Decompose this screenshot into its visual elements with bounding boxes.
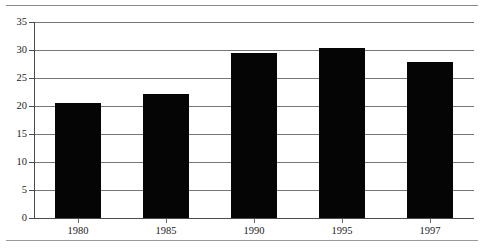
bar-1995 xyxy=(319,48,365,218)
bar-1997 xyxy=(407,62,453,218)
y-axis-tick-25 xyxy=(29,78,35,79)
y-axis-tick-labels: 05101520253035 xyxy=(0,0,27,249)
x-axis-tick-1985 xyxy=(166,219,167,223)
x-axis-label-1997: 1997 xyxy=(386,225,474,236)
x-axis-label-1990: 1990 xyxy=(210,225,298,236)
x-axis-tick-1990 xyxy=(254,219,255,223)
y-axis-tick-15 xyxy=(29,134,35,135)
y-axis-label-25: 25 xyxy=(3,73,27,84)
bottom-divider-rule xyxy=(6,240,478,241)
bar-chart-figure: 05101520253035 19801985199019951997 xyxy=(0,0,484,249)
x-axis-tick-1995 xyxy=(342,219,343,223)
bar-1990 xyxy=(231,53,277,218)
y-axis-label-20: 20 xyxy=(3,101,27,112)
y-axis-tick-10 xyxy=(29,162,35,163)
x-axis-label-1985: 1985 xyxy=(122,225,210,236)
y-axis-tick-35 xyxy=(29,22,35,23)
x-axis-tick-1997 xyxy=(430,219,431,223)
bar-1985 xyxy=(143,94,189,218)
y-axis-label-35: 35 xyxy=(3,17,27,28)
y-axis-tick-30 xyxy=(29,50,35,51)
y-axis-tick-5 xyxy=(29,190,35,191)
bars-layer xyxy=(34,22,474,218)
y-axis-label-30: 30 xyxy=(3,45,27,56)
x-axis-label-1980: 1980 xyxy=(34,225,122,236)
y-axis-label-5: 5 xyxy=(3,185,27,196)
y-axis-tick-0 xyxy=(29,218,35,219)
y-axis-label-10: 10 xyxy=(3,157,27,168)
x-axis-tick-1980 xyxy=(78,219,79,223)
x-axis-label-1995: 1995 xyxy=(298,225,386,236)
y-axis-label-15: 15 xyxy=(3,129,27,140)
top-divider-rule xyxy=(6,5,478,6)
y-axis-tick-20 xyxy=(29,106,35,107)
bar-1980 xyxy=(55,103,101,218)
cutoff-title-text xyxy=(120,0,370,1)
y-axis-label-0: 0 xyxy=(3,213,27,224)
